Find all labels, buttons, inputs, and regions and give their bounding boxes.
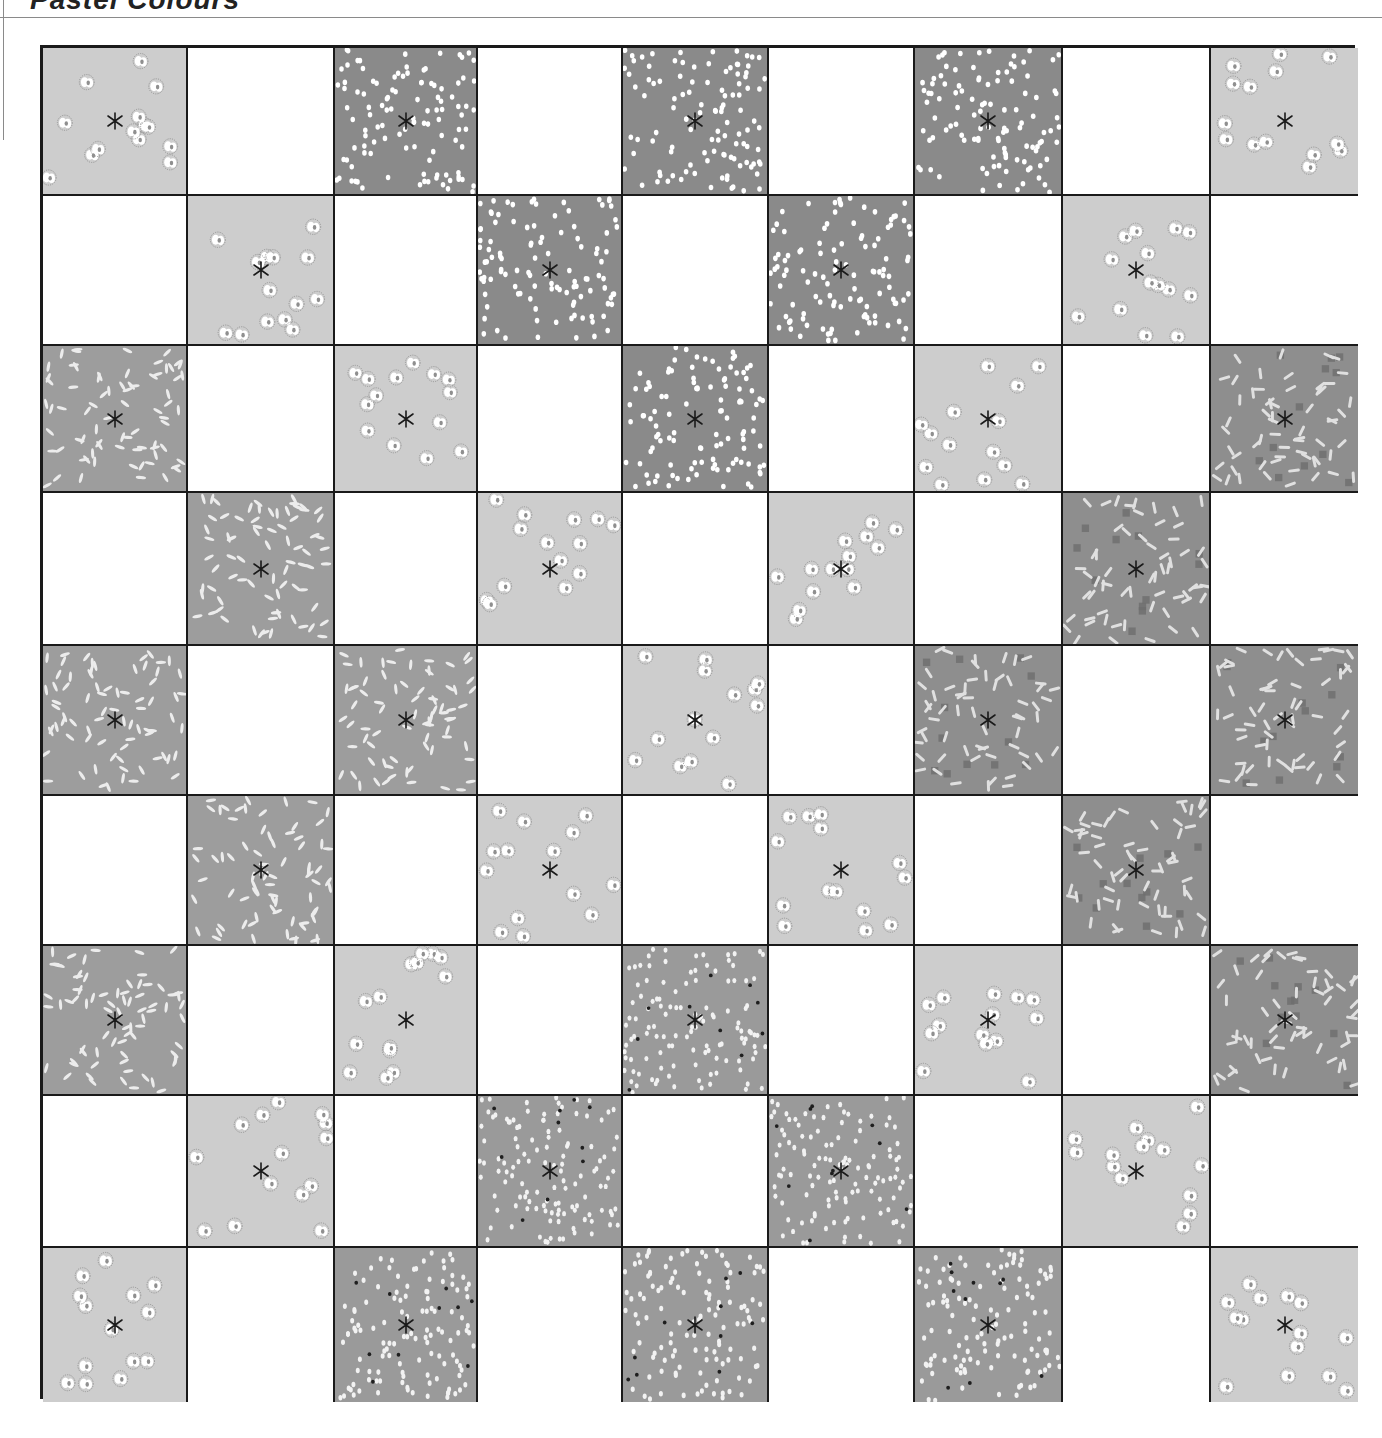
page-title: Pastel Colours [30,0,240,16]
light-flower-print-patch [769,493,915,646]
light-flower-print-patch [915,346,1063,493]
dark-fleck-print-patch [915,48,1063,196]
dark-fleck-print-patch [623,48,769,196]
dark-fleck-print-patch [623,346,769,493]
tie-stitch-icon [828,857,854,883]
tie-stitch-icon [682,108,708,134]
blank-patch [769,646,915,796]
blank-patch [623,196,769,346]
light-flower-print-patch [478,796,623,946]
light-flower-print-patch [43,1248,188,1402]
tie-stitch-icon [393,108,419,134]
blank-patch [1211,796,1358,946]
light-flower-print-patch [43,48,188,196]
light-flower-print-patch [335,346,478,493]
blank-patch [1063,646,1211,796]
tie-stitch-icon [248,857,274,883]
tie-stitch-icon [975,1007,1001,1033]
blank-patch [478,646,623,796]
tie-stitch-icon [393,1007,419,1033]
tie-stitch-icon [682,1007,708,1033]
blank-patch [478,346,623,493]
blank-patch [188,346,335,493]
blank-patch [43,196,188,346]
speckled-dot-print-patch [769,1096,915,1248]
blank-patch [335,196,478,346]
blank-patch [478,48,623,196]
blank-patch [623,1096,769,1248]
tie-stitch-icon [1272,1007,1298,1033]
speckled-dot-print-patch [623,946,769,1096]
tie-stitch-icon [537,257,563,283]
tie-stitch-icon [393,406,419,432]
confetti-squiggle-print-patch [1063,796,1211,946]
rice-dash-print-patch [188,493,335,646]
blank-patch [43,796,188,946]
tie-stitch-icon [1272,1312,1298,1338]
tie-stitch-icon [828,556,854,582]
blank-patch [769,946,915,1096]
light-flower-print-patch [188,196,335,346]
blank-patch [623,796,769,946]
light-flower-print-patch [1063,1096,1211,1248]
blank-patch [1063,346,1211,493]
light-flower-print-patch [915,946,1063,1096]
tie-stitch-icon [1272,108,1298,134]
blank-patch [1063,48,1211,196]
tie-stitch-icon [393,707,419,733]
blank-patch [623,493,769,646]
blank-patch [1211,196,1358,346]
tie-stitch-icon [682,1312,708,1338]
tie-stitch-icon [537,1158,563,1184]
blank-patch [769,346,915,493]
blank-patch [478,946,623,1096]
patchwork-quilt-grid [40,45,1355,1399]
light-flower-print-patch [1063,196,1211,346]
blank-patch [769,1248,915,1402]
tie-stitch-icon [248,556,274,582]
speckled-dot-print-patch [915,1248,1063,1402]
blank-patch [1211,1096,1358,1248]
speckled-dot-print-patch [623,1248,769,1402]
confetti-squiggle-print-patch [915,646,1063,796]
blank-patch [188,646,335,796]
blank-patch [188,946,335,1096]
header-divider [0,17,1382,18]
blank-patch [43,1096,188,1248]
speckled-dot-print-patch [478,1096,623,1248]
light-flower-print-patch [335,946,478,1096]
blank-patch [915,196,1063,346]
tie-stitch-icon [975,108,1001,134]
tie-stitch-icon [828,1158,854,1184]
blank-patch [915,1096,1063,1248]
blank-patch [915,493,1063,646]
light-flower-print-patch [1211,1248,1358,1402]
blank-patch [188,48,335,196]
rice-dash-print-patch [43,346,188,493]
tie-stitch-icon [1123,1158,1149,1184]
tie-stitch-icon [975,1312,1001,1338]
tie-stitch-icon [828,257,854,283]
blank-patch [335,1096,478,1248]
tie-stitch-icon [102,1007,128,1033]
dark-fleck-print-patch [769,196,915,346]
tie-stitch-icon [537,857,563,883]
confetti-squiggle-print-patch [1211,946,1358,1096]
rice-dash-print-patch [43,646,188,796]
tie-stitch-icon [1123,857,1149,883]
blank-patch [335,493,478,646]
tie-stitch-icon [102,1312,128,1338]
tie-stitch-icon [682,406,708,432]
blank-patch [335,796,478,946]
tie-stitch-icon [248,1158,274,1184]
confetti-squiggle-print-patch [1063,493,1211,646]
margin-line [3,0,4,140]
tie-stitch-icon [248,257,274,283]
light-flower-print-patch [478,493,623,646]
tie-stitch-icon [1123,556,1149,582]
tie-stitch-icon [1123,257,1149,283]
tie-stitch-icon [102,406,128,432]
light-flower-print-patch [623,646,769,796]
rice-dash-print-patch [335,646,478,796]
tie-stitch-icon [393,1312,419,1338]
